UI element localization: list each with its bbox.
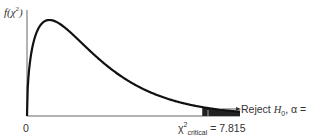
chi-square-diagram (0, 0, 309, 138)
origin-label: 0 (23, 122, 29, 134)
critical-value-label: χ2critical = 7.815 (178, 121, 246, 136)
density-curve (27, 20, 240, 116)
reject-label: Reject H0, α = 0.05 (241, 103, 309, 117)
y-axis-label: f(χ2) (4, 5, 23, 18)
